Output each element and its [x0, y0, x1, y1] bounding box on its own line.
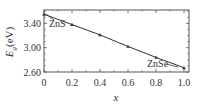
x-tick-label: 0.4 [94, 77, 107, 88]
data-point-marker [42, 12, 46, 15]
x-tick-label: 0 [42, 77, 47, 88]
y-axis-title-unit: (eV) [3, 26, 16, 46]
y-axis-title: Eg(eV) [3, 26, 18, 58]
y-tick-label: 3.00 [24, 42, 42, 53]
y-tick-label: 2.60 [24, 67, 42, 78]
x-tick-label: 0.8 [150, 77, 163, 88]
annotation-znse: ZnSe [147, 58, 169, 69]
x-tick-label: 0.6 [122, 77, 135, 88]
chart: 3.40 3.00 2.60 0 0.2 0.4 0.6 0.8 1.0 x E… [0, 0, 201, 106]
x-tick-label: 0.2 [66, 77, 79, 88]
svg-text:Eg(eV): Eg(eV) [3, 26, 18, 58]
y-tick-label: 3.40 [24, 18, 42, 29]
x-tick-label: 1.0 [178, 77, 191, 88]
x-axis-title: x [113, 91, 119, 103]
annotation-zns: ZnS [49, 18, 66, 29]
